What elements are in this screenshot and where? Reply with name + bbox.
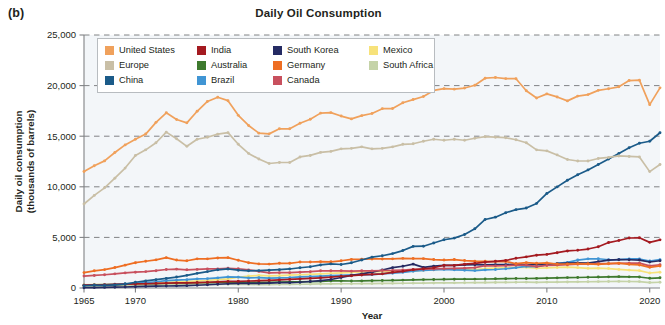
legend-item-canada[interactable]: Canada (273, 76, 369, 85)
legend-label: United States (119, 46, 175, 55)
x-tick-label: 2000 (433, 295, 454, 306)
legend-label: South Korea (287, 46, 339, 55)
legend-swatch-icon (369, 46, 378, 55)
legend-item-brazil[interactable]: Brazil (197, 76, 273, 85)
x-axis-title: Year (362, 310, 383, 321)
figure-panel-b: (b) Daily Oil Consumption 05,00010,00015… (0, 0, 665, 325)
legend-label: Germany (287, 61, 325, 70)
legend-item-south-korea[interactable]: South Korea (273, 46, 369, 55)
y-tick-label: 15,000 (47, 131, 76, 142)
legend-label: Canada (287, 76, 320, 85)
legend-swatch-icon (105, 61, 114, 70)
legend-item-europe[interactable]: Europe (105, 61, 197, 70)
x-tick-label: 1965 (73, 295, 94, 306)
legend-grid: United StatesIndiaSouth KoreaMexicoEurop… (105, 43, 428, 88)
legend-swatch-icon (273, 76, 282, 85)
y-tick-label: 0 (71, 282, 76, 293)
legend-label: China (119, 76, 143, 85)
legend-item-united-states[interactable]: United States (105, 46, 197, 55)
legend-item-australia[interactable]: Australia (197, 61, 273, 70)
y-axis-title: Daily oil consumption(thousands of barre… (13, 110, 36, 213)
x-tick-label: 2010 (536, 295, 557, 306)
legend-label: Europe (119, 61, 149, 70)
legend-item-india[interactable]: India (197, 46, 273, 55)
svg-text:(thousands of barrels): (thousands of barrels) (25, 110, 36, 213)
y-tick-label: 25,000 (47, 29, 76, 40)
svg-text:Daily oil consumption: Daily oil consumption (13, 111, 24, 213)
x-tick-label: 2020 (639, 295, 660, 306)
legend-swatch-icon (105, 76, 114, 85)
legend-label: India (211, 46, 231, 55)
legend-swatch-icon (197, 76, 206, 85)
legend-swatch-icon (369, 61, 378, 70)
x-tick-label: 1970 (125, 295, 146, 306)
legend-swatch-icon (197, 46, 206, 55)
legend-item-south-africa[interactable]: South Africa (369, 61, 455, 70)
legend-label: Australia (211, 61, 247, 70)
legend-swatch-icon (273, 46, 282, 55)
legend-swatch-icon (273, 61, 282, 70)
legend-swatch-icon (197, 61, 206, 70)
legend-label: Brazil (211, 76, 234, 85)
legend-item-germany[interactable]: Germany (273, 61, 369, 70)
legend-item-mexico[interactable]: Mexico (369, 46, 455, 55)
x-tick-label: 1990 (331, 295, 352, 306)
y-tick-label: 5,000 (52, 232, 76, 243)
legend-swatch-icon (105, 46, 114, 55)
legend-item-china[interactable]: China (105, 76, 197, 85)
legend-label: South Africa (383, 61, 433, 70)
legend-label: Mexico (383, 46, 412, 55)
y-tick-label: 10,000 (47, 181, 76, 192)
y-tick-label: 20,000 (47, 80, 76, 91)
x-tick-label: 1980 (228, 295, 249, 306)
chart-legend: United StatesIndiaSouth KoreaMexicoEurop… (97, 38, 435, 93)
